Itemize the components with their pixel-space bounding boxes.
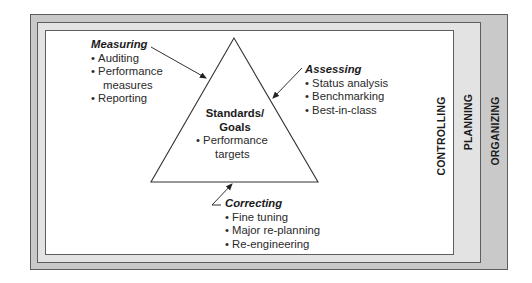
correcting-title: Correcting [225, 197, 320, 211]
standards-group: Standards/ Goals [196, 107, 274, 134]
assessing-title: Assessing [305, 63, 388, 77]
standards-items: Performance targets [196, 134, 268, 161]
measuring-group: Measuring Auditing Performance measures … [91, 38, 163, 106]
measuring-item: Performance [91, 65, 163, 79]
assessing-item: Best-in-class [305, 104, 388, 118]
goals-title: Goals [196, 121, 274, 135]
correcting-item: Major re-planning [225, 224, 320, 238]
correcting-item: Fine tuning [225, 211, 320, 225]
assessing-group: Assessing Status analysis Benchmarking B… [305, 63, 388, 117]
measuring-item: Reporting [91, 92, 163, 106]
correcting-group: Correcting Fine tuning Major re-planning… [225, 197, 320, 251]
assessing-item: Benchmarking [305, 90, 388, 104]
measuring-item: Auditing [91, 52, 163, 66]
standards-item-continued: targets [196, 148, 268, 162]
assessing-item: Status analysis [305, 77, 388, 91]
standards-item: Performance [196, 134, 268, 148]
planning-label: PLANNING [462, 62, 474, 182]
standards-title: Standards/ [196, 107, 274, 121]
measuring-item-continued: measures [91, 79, 163, 93]
controlling-label: CONTROLLING [435, 76, 447, 196]
assessing-arrow [273, 68, 302, 98]
organizing-label: ORGANIZING [489, 71, 501, 191]
measuring-title: Measuring [91, 38, 163, 52]
correcting-item: Re-engineering [225, 238, 320, 252]
